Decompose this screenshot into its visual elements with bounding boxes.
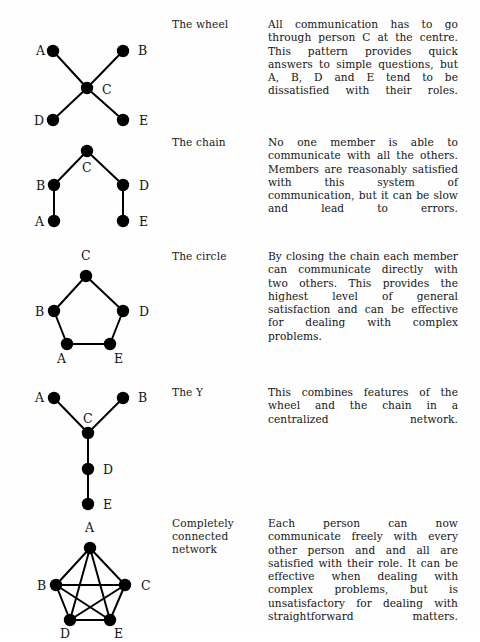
network-description-y: This combines features of the wheel and … xyxy=(268,386,458,439)
node-B xyxy=(117,45,129,57)
completely-connected-diagram-svg: ABCDE xyxy=(6,517,157,642)
node-label-D: D xyxy=(103,462,113,477)
circle-diagram-svg: CBDAE xyxy=(6,250,155,379)
chain-diagram-svg: CBDAE xyxy=(6,136,155,242)
chain-diagram: CBDAE xyxy=(6,136,172,242)
node-D xyxy=(117,179,129,191)
node-A xyxy=(48,392,60,404)
node-B xyxy=(48,179,60,191)
network-description-circle: By closing the chain each member can com… xyxy=(268,250,458,356)
node-label-C: C xyxy=(102,82,112,97)
node-D xyxy=(64,614,76,626)
node-E xyxy=(117,114,129,126)
node-E xyxy=(117,215,129,227)
edge-C-D xyxy=(86,276,123,311)
node-A xyxy=(48,215,60,227)
wheel-diagram: ABCDE xyxy=(6,18,172,141)
network-description-chain: No one member is able to communicate wit… xyxy=(268,136,458,229)
node-label-A: A xyxy=(84,520,95,535)
node-label-B: B xyxy=(35,304,44,319)
node-label-E: E xyxy=(114,351,123,366)
network-label-y: The Y xyxy=(172,386,264,399)
edge-B-C xyxy=(88,398,123,433)
node-label-B: B xyxy=(36,178,45,193)
node-label-E: E xyxy=(139,113,148,128)
node-D xyxy=(82,463,94,475)
node-B xyxy=(117,392,129,404)
node-E xyxy=(104,614,116,626)
node-label-E: E xyxy=(103,497,112,512)
network-label-chain: The chain xyxy=(172,136,264,149)
node-E xyxy=(104,338,116,350)
node-C xyxy=(81,145,93,157)
node-C xyxy=(82,427,94,439)
node-label-E: E xyxy=(114,626,123,641)
node-label-D: D xyxy=(60,626,70,641)
node-A xyxy=(47,45,59,57)
network-description-completely-connected: Each person can now communicate freely w… xyxy=(268,517,458,637)
node-label-A: A xyxy=(35,43,46,58)
completely-connected-diagram: ABCDE xyxy=(6,517,172,642)
edge-C-D xyxy=(87,151,123,185)
edge-A-C xyxy=(53,51,87,88)
node-D xyxy=(117,305,129,317)
network-description-wheel: All communication has to go through pers… xyxy=(268,18,458,111)
node-label-A: A xyxy=(34,214,45,229)
node-label-D: D xyxy=(34,113,44,128)
node-label-C: C xyxy=(83,411,93,426)
node-label-B: B xyxy=(138,390,147,405)
node-label-C: C xyxy=(81,248,91,263)
network-label-circle: The circle xyxy=(172,250,264,263)
y-diagram: ABCDE xyxy=(6,386,172,525)
node-label-D: D xyxy=(139,178,149,193)
node-label-D: D xyxy=(139,304,149,319)
node-B xyxy=(50,579,62,591)
node-label-C: C xyxy=(141,578,151,593)
network-label-completely-connected: Completely connected network xyxy=(172,517,264,557)
node-B xyxy=(48,305,60,317)
node-label-B: B xyxy=(138,43,147,58)
y-diagram-svg: ABCDE xyxy=(6,386,154,525)
edge-C-D xyxy=(53,88,87,120)
node-C xyxy=(80,270,92,282)
node-label-A: A xyxy=(56,351,67,366)
node-C xyxy=(119,579,131,591)
circle-diagram: CBDAE xyxy=(6,250,172,379)
network-label-wheel: The wheel xyxy=(172,18,264,31)
node-label-E: E xyxy=(139,214,148,229)
node-A xyxy=(61,338,73,350)
wheel-diagram-svg: ABCDE xyxy=(6,18,155,141)
node-label-A: A xyxy=(34,390,45,405)
node-D xyxy=(47,114,59,126)
node-E xyxy=(82,498,94,510)
edge-C-B xyxy=(54,276,86,311)
node-label-B: B xyxy=(37,578,46,593)
node-A xyxy=(84,542,96,554)
node-label-C: C xyxy=(82,160,92,175)
node-C xyxy=(81,82,93,94)
